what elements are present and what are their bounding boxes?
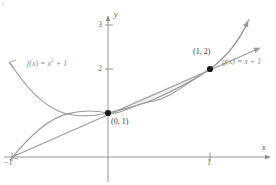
y-tick-label-3: 3 — [98, 20, 102, 29]
curve-label-gx: g(x) = x + 1 — [222, 57, 261, 66]
point-0-1 — [105, 110, 111, 116]
x-tick-label-neg1: −1 — [4, 158, 13, 167]
curve-label-fx: f(x) = x2 + 1 — [27, 57, 67, 68]
point-label-0-1: (0, 1) — [111, 117, 128, 126]
y-axis-label: y — [114, 10, 118, 19]
y-tick-label-2: 2 — [98, 64, 102, 73]
x-tick-label-1: 1 — [207, 158, 211, 167]
point-label-1-2: (1, 2) — [193, 47, 210, 56]
shaded-area — [108, 69, 210, 113]
curve-fx — [10, 21, 248, 160]
plot-canvas — [0, 0, 276, 185]
curve-label-fx-prefix: f(x) = x — [27, 59, 51, 68]
point-1-2 — [207, 66, 213, 72]
graph-figure: h — [0, 0, 276, 185]
x-axis-label: x — [262, 143, 266, 152]
curve-label-fx-suffix: + 1 — [54, 59, 67, 68]
